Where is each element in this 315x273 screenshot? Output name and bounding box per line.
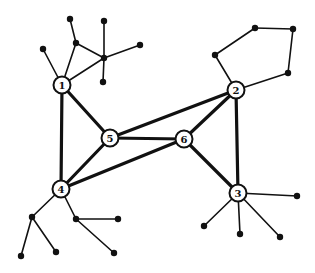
leaf-node-b4	[285, 70, 291, 76]
edge-d1-d2	[21, 217, 32, 256]
node-2: 2	[228, 82, 245, 99]
leaf-node-c1	[294, 193, 300, 199]
leaf-node-d6	[111, 250, 117, 256]
edge-6-2	[184, 90, 236, 139]
leaf-node-a7	[100, 79, 106, 85]
leaf-node-b3	[290, 26, 296, 32]
edge-a2-a4	[76, 43, 104, 58]
leaf-node-a4	[101, 55, 107, 61]
leaf-node-a2	[73, 40, 79, 46]
leaf-node-b2	[252, 25, 258, 31]
node-label: 2	[233, 85, 240, 96]
leaf-node-a1	[40, 46, 46, 52]
leaf-node-c3	[237, 231, 243, 237]
leaf-node-d4	[73, 216, 79, 222]
node-label: 6	[181, 134, 188, 145]
edge-1-4	[61, 85, 62, 189]
node-5: 5	[102, 130, 119, 147]
node-6: 6	[176, 131, 193, 148]
node-3: 3	[230, 185, 247, 202]
edge-5-2	[110, 90, 236, 138]
edge-1-5	[62, 85, 110, 138]
leaf-node-d5	[115, 216, 121, 222]
edge-b1-b2	[215, 28, 255, 55]
edge-b2-b3	[255, 28, 293, 29]
node-label: 4	[58, 184, 65, 195]
edge-5-4	[61, 138, 110, 189]
edge-b3-b4	[288, 29, 293, 73]
leaf-node-c2	[201, 223, 207, 229]
leaf-node-a5	[101, 18, 107, 24]
leaf-node-b1	[212, 52, 218, 58]
edge-6-4	[61, 139, 184, 189]
leaf-node-d3	[53, 249, 59, 255]
edge-d1-d3	[32, 217, 56, 252]
edge-a4-a7	[103, 58, 104, 82]
leaf-node-d1	[29, 214, 35, 220]
leaf-node-c4	[277, 234, 283, 240]
edge-5-6	[110, 138, 184, 139]
edge-d4-d6	[76, 219, 114, 253]
node-1: 1	[54, 77, 71, 94]
node-4: 4	[53, 181, 70, 198]
node-label: 3	[235, 188, 242, 199]
graph-diagram: 123456	[0, 0, 315, 273]
node-label: 5	[107, 133, 114, 144]
node-label: 1	[59, 80, 66, 91]
leaf-node-a6	[137, 42, 143, 48]
edge-a4-a6	[104, 45, 140, 58]
leaf-node-d2	[18, 253, 24, 259]
thick-edges-group	[61, 85, 238, 193]
edge-a2-a3	[70, 19, 76, 43]
edge-2-3	[236, 90, 238, 193]
edge-6-3	[184, 139, 238, 193]
leaf-node-a3	[67, 16, 73, 22]
